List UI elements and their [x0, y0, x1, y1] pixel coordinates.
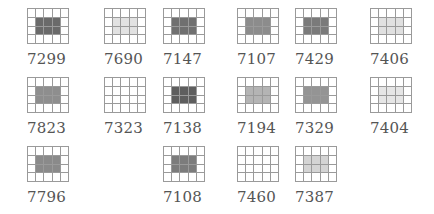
tile-label: 7299: [27, 50, 66, 68]
grid-cell: [180, 96, 188, 105]
grid-tile[interactable]: 7329: [295, 77, 355, 143]
grid-cell: [304, 35, 312, 44]
tile-label: 7138: [163, 119, 202, 137]
grid-cell: [271, 27, 279, 36]
grid-tile[interactable]: 7406: [370, 8, 430, 74]
grid-cell: [44, 156, 52, 165]
grid-cell: [396, 18, 404, 27]
grid-cell: [197, 104, 205, 113]
grid-cell: [36, 104, 44, 113]
grid-cell: [61, 104, 69, 113]
grid-cell: [44, 104, 52, 113]
tile-label: 7406: [370, 50, 409, 68]
grid-cell: [28, 173, 36, 182]
grid-cell: [44, 9, 52, 18]
grid-cell: [197, 78, 205, 87]
grid-cell: [36, 147, 44, 156]
grid-cell: [172, 173, 180, 182]
grid-tile[interactable]: 7108: [163, 146, 223, 212]
grid-tile[interactable]: 7194: [237, 77, 297, 143]
grid-tile[interactable]: 7323: [104, 77, 164, 143]
grid-cell: [113, 35, 121, 44]
grid-cell: [404, 87, 412, 96]
tile-label: 7329: [295, 119, 334, 137]
grid-cell: [172, 78, 180, 87]
grid-cell: [105, 96, 113, 105]
grid-cell: [180, 173, 188, 182]
grid-cell: [404, 96, 412, 105]
tile-label: 7323: [104, 119, 143, 137]
grid-cell: [296, 18, 304, 27]
grid-cell: [371, 104, 379, 113]
grid-cell: [312, 173, 320, 182]
grid-tile[interactable]: 7690: [104, 8, 164, 74]
grid-cell: [329, 96, 337, 105]
grid-cell: [130, 78, 138, 87]
grid-cell: [61, 87, 69, 96]
grid-cell: [312, 147, 320, 156]
grid-cell: [296, 173, 304, 182]
grid-cell: [197, 173, 205, 182]
grid-cell: [44, 173, 52, 182]
grid-cell: [238, 87, 246, 96]
grid-tile[interactable]: 7823: [27, 77, 87, 143]
grid-cell: [246, 78, 254, 87]
grid-cell: [44, 165, 52, 174]
grid-tile[interactable]: 7138: [163, 77, 223, 143]
grid-cell: [296, 165, 304, 174]
grid-cell: [246, 18, 254, 27]
grid-tile[interactable]: 7796: [27, 146, 87, 212]
grid-cell: [379, 35, 387, 44]
grid-cell: [172, 87, 180, 96]
grid-cell: [189, 147, 197, 156]
grid-cell: [254, 87, 262, 96]
grid-cell: [130, 96, 138, 105]
grid-cell: [387, 18, 395, 27]
grid-cell: [172, 9, 180, 18]
tile-label: 7147: [163, 50, 202, 68]
grid-cell: [197, 87, 205, 96]
grid-cell: [404, 78, 412, 87]
grid-cell: [371, 18, 379, 27]
grid-cell: [263, 35, 271, 44]
grid-cell: [304, 156, 312, 165]
grid-cell: [371, 27, 379, 36]
grid-cell: [296, 147, 304, 156]
grid-tile[interactable]: 7460: [237, 146, 297, 212]
grid-cell: [246, 165, 254, 174]
grid-cell: [121, 9, 129, 18]
grid-cell: [312, 27, 320, 36]
grid-tile[interactable]: 7147: [163, 8, 223, 74]
grid-cell: [387, 9, 395, 18]
grid-cell: [379, 96, 387, 105]
grid-cell: [329, 18, 337, 27]
grid-cell: [321, 173, 329, 182]
grid-cell: [53, 87, 61, 96]
grid-tile[interactable]: 7107: [237, 8, 297, 74]
grid-cell: [197, 147, 205, 156]
grid-cell: [238, 147, 246, 156]
grid-tile[interactable]: 7387: [295, 146, 355, 212]
grid-cell: [113, 18, 121, 27]
grid-cell: [189, 78, 197, 87]
grid-tile[interactable]: 7299: [27, 8, 87, 74]
grid-tile[interactable]: 7429: [295, 8, 355, 74]
grid-cell: [321, 104, 329, 113]
grid-cell: [36, 165, 44, 174]
grid-cell: [197, 165, 205, 174]
grid-cell: [263, 104, 271, 113]
grid-tile[interactable]: 7404: [370, 77, 430, 143]
tile-label: 7194: [237, 119, 276, 137]
grid-cell: [296, 87, 304, 96]
grid-cell: [387, 35, 395, 44]
grid-cell: [238, 27, 246, 36]
grid-cell: [304, 104, 312, 113]
tile-label: 7460: [237, 188, 276, 206]
grid-cell: [130, 104, 138, 113]
grid-cell: [164, 27, 172, 36]
grid-cell: [172, 165, 180, 174]
grid-cell: [246, 147, 254, 156]
grid-cell: [321, 35, 329, 44]
grid-cell: [164, 156, 172, 165]
grid-cell: [312, 18, 320, 27]
